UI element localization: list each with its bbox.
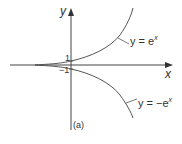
curve-label-neg-exp-text: y = −e: [138, 97, 169, 109]
curve-label-exp-exponent: x: [154, 34, 158, 41]
curve-label-neg-exp-exponent: x: [169, 96, 173, 103]
curve-label-exp-text: y = e: [130, 35, 154, 47]
tick-label-negative: −1: [59, 66, 69, 75]
curve-neg-exp: [35, 65, 133, 118]
y-axis-label: y: [60, 5, 66, 17]
x-axis-label: x: [165, 68, 171, 80]
plot-canvas: [0, 0, 182, 144]
leader-line-exp: [118, 38, 129, 44]
curve-label-exp: y = ex: [130, 34, 158, 47]
figure-caption: (a): [73, 121, 84, 130]
curve-label-neg-exp: y = −ex: [138, 96, 172, 109]
curve-exp: [35, 8, 133, 65]
y-axis-arrow-icon: [68, 8, 74, 16]
tick-label-positive: 1: [65, 54, 70, 63]
exponential-figure: y x 1 −1 y = ex y = −ex (a): [0, 0, 182, 144]
leader-line-neg-exp: [126, 99, 137, 103]
